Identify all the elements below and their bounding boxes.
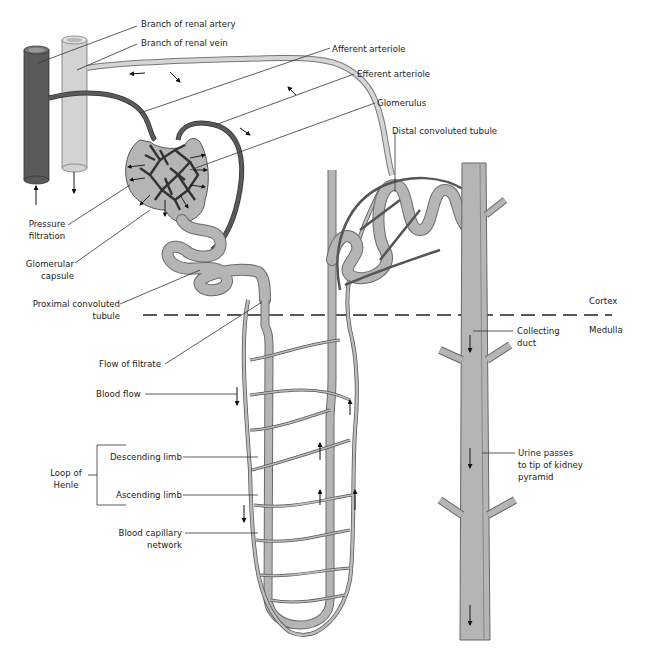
- label-afferent-arteriole: Afferent arteriole: [332, 43, 406, 55]
- label-cortex: Cortex: [589, 295, 617, 307]
- label-glomerular-capsule: Glomerular capsule: [18, 258, 74, 282]
- label-medulla: Medulla: [589, 324, 623, 336]
- renal-vein-vessel: [62, 36, 87, 172]
- renal-artery-vessel: [24, 46, 49, 184]
- label-urine-passes: Urine passes to tip of kidney pyramid: [518, 447, 583, 483]
- label-collecting-duct: Collecting duct: [517, 325, 560, 349]
- label-efferent-arteriole: Efferent arteriole: [357, 68, 430, 80]
- label-pressure-filtration: Pressure filtration: [24, 218, 70, 242]
- label-distal-convoluted-tubule: Distal convoluted tubule: [392, 125, 497, 137]
- label-flow-of-filtrate: Flow of filtrate: [99, 358, 161, 370]
- label-glomerulus: Glomerulus: [377, 97, 426, 109]
- label-descending-limb: Descending limb: [110, 451, 182, 463]
- label-blood-capillary-network: Blood capillary network: [100, 527, 182, 551]
- label-loop-of-henle: Loop of Henle: [44, 467, 88, 491]
- label-branch-renal-vein: Branch of renal vein: [141, 37, 228, 49]
- label-blood-flow: Blood flow: [96, 388, 141, 400]
- loop-of-henle-shape: [265, 170, 332, 625]
- label-branch-renal-artery: Branch of renal artery: [141, 18, 236, 30]
- label-proximal-convoluted-tubule: Proximal convoluted tubule: [18, 298, 120, 322]
- collecting-duct-shape: [440, 163, 515, 640]
- label-ascending-limb: Ascending limb: [116, 489, 182, 501]
